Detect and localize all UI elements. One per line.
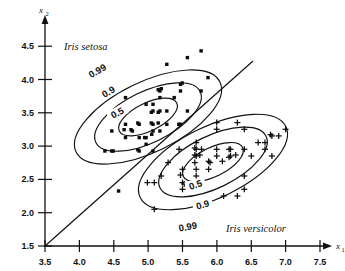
data-point-setosa — [150, 111, 153, 114]
y-tick-label: 3.0 — [21, 141, 34, 151]
data-point-versicolor — [206, 166, 212, 172]
data-point-versicolor — [269, 153, 275, 159]
contour-label-versicolor-099: 0.99 — [178, 220, 198, 234]
x-axis-ticks: 3.5 4.0 4.5 5.0 5.5 6.0 6.5 7.0 7.5 — [39, 240, 327, 267]
x-tick-label: 6.0 — [211, 257, 224, 267]
data-point-setosa — [157, 121, 160, 124]
data-point-versicolor — [233, 152, 239, 158]
data-point-versicolor — [221, 193, 227, 199]
data-point-setosa — [173, 96, 176, 99]
x-tick-label: 7.0 — [279, 257, 292, 267]
data-point-setosa — [157, 88, 160, 91]
data-point-versicolor — [248, 153, 254, 159]
data-point-versicolor — [144, 180, 150, 186]
x-tick-label: 7.5 — [314, 257, 327, 267]
y-tick-label: 1.5 — [21, 241, 34, 251]
data-point-setosa — [124, 96, 127, 99]
y-tick-label: 4.5 — [21, 41, 34, 51]
y-axis-ticks: 1.5 2.0 2.5 3.0 3.5 4.0 4.5 — [21, 41, 52, 251]
species-label-setosa: Iris setosa — [63, 41, 107, 52]
x-axis-label-subscript: 1 — [342, 246, 345, 253]
data-point-versicolor — [151, 180, 157, 186]
data-point-setosa — [158, 96, 161, 99]
setosa-point-group — [103, 49, 210, 193]
y-tick-label: 4.0 — [21, 75, 34, 85]
data-point-setosa — [157, 111, 160, 114]
data-point-setosa — [206, 76, 209, 79]
y-tick-label: 2.5 — [21, 174, 34, 184]
data-point-setosa — [124, 136, 127, 139]
data-point-setosa — [160, 87, 163, 90]
data-point-versicolor — [234, 193, 240, 199]
x-tick-label: 6.5 — [245, 257, 258, 267]
data-point-setosa — [151, 129, 154, 132]
data-point-setosa — [150, 121, 153, 124]
x-axis-arrowhead — [323, 243, 332, 250]
data-point-versicolor — [180, 186, 186, 192]
data-point-versicolor — [255, 140, 261, 146]
data-point-versicolor — [241, 173, 247, 179]
data-point-setosa — [151, 149, 154, 152]
data-point-versicolor — [192, 160, 198, 166]
data-point-setosa — [186, 109, 189, 112]
data-point-setosa — [143, 136, 146, 139]
data-point-setosa — [129, 128, 132, 131]
data-point-setosa — [138, 136, 141, 139]
y-axis-label-subscript: 2 — [46, 10, 49, 17]
x-tick-label: 5.5 — [176, 257, 189, 267]
data-point-setosa — [150, 133, 153, 136]
data-point-versicolor — [226, 146, 232, 152]
data-point-versicolor — [199, 146, 205, 152]
data-point-setosa — [165, 109, 168, 112]
data-point-setosa — [103, 149, 106, 152]
data-point-versicolor — [192, 152, 198, 158]
data-point-versicolor — [206, 158, 212, 164]
data-point-versicolor — [207, 160, 213, 166]
data-point-setosa — [144, 103, 147, 106]
data-point-setosa — [165, 63, 168, 66]
data-point-versicolor — [219, 158, 225, 164]
x-tick-label: 3.5 — [39, 257, 52, 267]
data-point-versicolor — [214, 146, 220, 152]
data-point-versicolor — [214, 120, 220, 126]
data-point-versicolor — [228, 153, 234, 159]
data-point-setosa — [136, 148, 139, 151]
data-point-versicolor — [214, 153, 220, 159]
setosa-contour-0.5 — [113, 90, 183, 143]
data-point-setosa — [179, 89, 182, 92]
species-label-versicolor: Iris versicolor — [225, 223, 287, 234]
data-point-versicolor — [262, 146, 268, 152]
x-axis-label: x — [335, 241, 340, 251]
x-tick-label: 4.5 — [108, 257, 121, 267]
data-point-setosa — [181, 81, 184, 84]
data-point-setosa — [151, 103, 154, 106]
y-tick-label: 2.0 — [21, 208, 34, 218]
data-point-setosa — [110, 129, 113, 132]
data-point-versicolor — [234, 120, 240, 126]
iris-discriminant-figure: 1.5 2.0 2.5 3.0 3.5 4.0 4.5 3.5 4.0 4.5 … — [0, 0, 345, 271]
data-point-setosa — [158, 129, 161, 132]
scatter-plot-canvas: 1.5 2.0 2.5 3.0 3.5 4.0 4.5 3.5 4.0 4.5 … — [0, 0, 345, 271]
data-point-versicolor — [193, 166, 199, 172]
data-point-versicolor — [192, 145, 198, 151]
data-point-setosa — [136, 121, 139, 124]
data-point-setosa — [199, 49, 202, 52]
data-point-setosa — [199, 89, 202, 92]
x-tick-label: 5.0 — [142, 257, 155, 267]
data-point-setosa — [117, 189, 120, 192]
data-point-versicolor — [226, 154, 232, 160]
data-point-setosa — [165, 123, 168, 126]
x-tick-label: 4.0 — [73, 257, 86, 267]
y-axis-label: x — [38, 5, 43, 15]
data-point-versicolor — [268, 132, 274, 138]
data-point-setosa — [177, 123, 180, 126]
data-point-setosa — [124, 123, 127, 126]
data-point-setosa — [144, 143, 147, 146]
y-tick-label: 3.5 — [21, 108, 34, 118]
data-point-setosa — [186, 56, 189, 59]
data-point-setosa — [122, 128, 125, 131]
data-point-versicolor — [269, 133, 275, 139]
data-point-versicolor — [193, 146, 199, 152]
data-point-versicolor — [276, 133, 282, 139]
data-point-setosa — [112, 149, 115, 152]
